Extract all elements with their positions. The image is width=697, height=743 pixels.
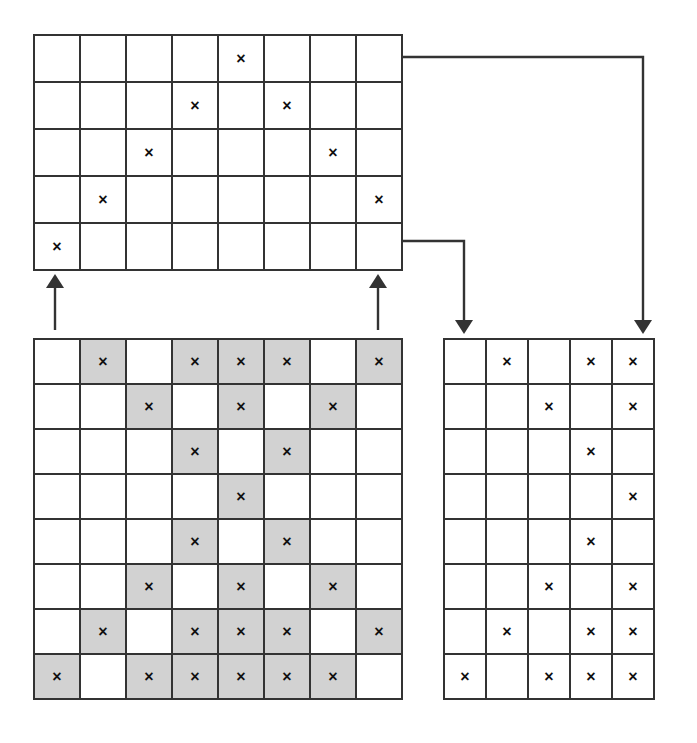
grid-cell[interactable] bbox=[357, 430, 403, 475]
grid-cell[interactable] bbox=[81, 430, 127, 475]
grid-cell[interactable] bbox=[311, 610, 357, 655]
grid-cell[interactable]: × bbox=[127, 655, 173, 700]
grid-cell[interactable] bbox=[487, 430, 529, 475]
grid-cell[interactable] bbox=[35, 83, 81, 130]
grid-cell[interactable] bbox=[35, 430, 81, 475]
grid-cell[interactable] bbox=[357, 224, 403, 271]
grid-cell[interactable]: × bbox=[265, 655, 311, 700]
grid-cell[interactable]: × bbox=[219, 565, 265, 610]
grid-cell[interactable]: × bbox=[219, 340, 265, 385]
grid-cell[interactable] bbox=[265, 130, 311, 177]
grid-cell[interactable] bbox=[357, 385, 403, 430]
grid-cell[interactable]: × bbox=[357, 610, 403, 655]
grid-cell[interactable]: × bbox=[529, 655, 571, 700]
grid-cell[interactable] bbox=[35, 565, 81, 610]
grid-cell[interactable]: × bbox=[265, 520, 311, 565]
grid-cell[interactable]: × bbox=[127, 385, 173, 430]
grid-cell[interactable] bbox=[35, 340, 81, 385]
grid-cell[interactable] bbox=[81, 385, 127, 430]
grid-cell[interactable] bbox=[81, 36, 127, 83]
grid-cell[interactable]: × bbox=[127, 130, 173, 177]
grid-cell[interactable]: × bbox=[265, 430, 311, 475]
grid-cell[interactable] bbox=[529, 430, 571, 475]
grid-cell[interactable] bbox=[571, 385, 613, 430]
grid-cell[interactable]: × bbox=[219, 36, 265, 83]
grid-cell[interactable]: × bbox=[81, 177, 127, 224]
grid-cell[interactable] bbox=[445, 610, 487, 655]
grid-cell[interactable]: × bbox=[127, 565, 173, 610]
grid-cell[interactable] bbox=[81, 224, 127, 271]
grid-cell[interactable] bbox=[265, 36, 311, 83]
grid-cell[interactable] bbox=[311, 36, 357, 83]
grid-cell[interactable] bbox=[35, 475, 81, 520]
grid-cell[interactable]: × bbox=[571, 520, 613, 565]
grid-cell[interactable]: × bbox=[311, 565, 357, 610]
grid-cell[interactable] bbox=[529, 520, 571, 565]
grid-cell[interactable] bbox=[127, 610, 173, 655]
grid-cell[interactable]: × bbox=[173, 610, 219, 655]
grid-cell[interactable] bbox=[173, 565, 219, 610]
grid-cell[interactable] bbox=[265, 177, 311, 224]
grid-cell[interactable] bbox=[265, 565, 311, 610]
grid-cell[interactable] bbox=[127, 340, 173, 385]
grid-cell[interactable] bbox=[357, 565, 403, 610]
grid-cell[interactable] bbox=[311, 520, 357, 565]
grid-cell[interactable] bbox=[445, 565, 487, 610]
grid-cell[interactable]: × bbox=[219, 610, 265, 655]
grid-cell[interactable] bbox=[219, 177, 265, 224]
grid-cell[interactable] bbox=[81, 130, 127, 177]
grid-cell[interactable]: × bbox=[219, 385, 265, 430]
grid-cell[interactable] bbox=[357, 655, 403, 700]
grid-cell[interactable] bbox=[487, 655, 529, 700]
grid-cell[interactable] bbox=[219, 130, 265, 177]
grid-cell[interactable]: × bbox=[571, 430, 613, 475]
grid-cell[interactable] bbox=[219, 224, 265, 271]
grid-cell[interactable] bbox=[127, 430, 173, 475]
grid-cell[interactable]: × bbox=[613, 565, 655, 610]
grid-cell[interactable] bbox=[357, 36, 403, 83]
grid-cell[interactable] bbox=[81, 475, 127, 520]
grid-cell[interactable] bbox=[81, 655, 127, 700]
grid-cell[interactable] bbox=[35, 130, 81, 177]
grid-cell[interactable]: × bbox=[529, 565, 571, 610]
grid-cell[interactable] bbox=[311, 430, 357, 475]
grid-cell[interactable] bbox=[173, 475, 219, 520]
grid-cell[interactable] bbox=[311, 83, 357, 130]
grid-cell[interactable] bbox=[357, 130, 403, 177]
grid-cell[interactable] bbox=[445, 430, 487, 475]
grid-cell[interactable] bbox=[445, 475, 487, 520]
grid-cell[interactable] bbox=[173, 224, 219, 271]
grid-cell[interactable]: × bbox=[219, 475, 265, 520]
grid-cell[interactable]: × bbox=[613, 340, 655, 385]
grid-cell[interactable] bbox=[173, 385, 219, 430]
grid-cell[interactable] bbox=[613, 430, 655, 475]
grid-cell[interactable] bbox=[127, 520, 173, 565]
grid-cell[interactable]: × bbox=[265, 83, 311, 130]
grid-cell[interactable]: × bbox=[81, 340, 127, 385]
grid-cell[interactable]: × bbox=[613, 655, 655, 700]
grid-cell[interactable]: × bbox=[487, 610, 529, 655]
grid-cell[interactable]: × bbox=[357, 177, 403, 224]
grid-cell[interactable] bbox=[219, 430, 265, 475]
grid-cell[interactable] bbox=[613, 520, 655, 565]
grid-cell[interactable] bbox=[219, 520, 265, 565]
grid-cell[interactable] bbox=[35, 520, 81, 565]
grid-cell[interactable] bbox=[311, 340, 357, 385]
grid-cell[interactable] bbox=[445, 385, 487, 430]
grid-cell[interactable] bbox=[219, 83, 265, 130]
grid-cell[interactable]: × bbox=[173, 83, 219, 130]
grid-cell[interactable] bbox=[35, 610, 81, 655]
grid-cell[interactable] bbox=[311, 475, 357, 520]
grid-cell[interactable] bbox=[529, 610, 571, 655]
grid-cell[interactable]: × bbox=[613, 610, 655, 655]
grid-cell[interactable] bbox=[35, 177, 81, 224]
grid-cell[interactable]: × bbox=[613, 385, 655, 430]
grid-cell[interactable] bbox=[127, 177, 173, 224]
grid-cell[interactable] bbox=[529, 475, 571, 520]
grid-cell[interactable]: × bbox=[219, 655, 265, 700]
grid-cell[interactable] bbox=[81, 83, 127, 130]
grid-cell[interactable]: × bbox=[487, 340, 529, 385]
grid-cell[interactable] bbox=[529, 340, 571, 385]
grid-cell[interactable]: × bbox=[81, 610, 127, 655]
grid-cell[interactable] bbox=[127, 224, 173, 271]
